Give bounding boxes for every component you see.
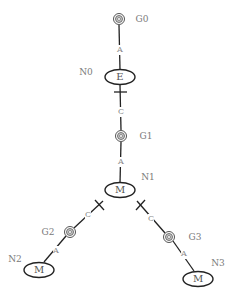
edge-label: A (118, 157, 124, 167)
node-text-n1: M (115, 185, 125, 195)
node-label-n3: N3 (211, 259, 225, 268)
target-icon (65, 227, 76, 238)
target-icon (164, 232, 175, 243)
edge-label: C (118, 107, 124, 117)
node-label-n1: N1 (141, 173, 155, 182)
node-label-n0: N0 (79, 68, 93, 77)
target-icon (116, 131, 127, 142)
edge-label: A (53, 246, 59, 256)
edge-label: A (181, 249, 187, 259)
goal-label-g1: G1 (140, 132, 153, 141)
goal-label-g0: G0 (136, 15, 149, 24)
target-icon (114, 14, 125, 25)
node-text-n0: E (116, 72, 123, 82)
process-diagram: A C A C A C A G0 G1 G2 G3 N0 N1 N2 N3 E … (0, 0, 242, 302)
node-text-n3: M (193, 274, 203, 284)
edge-label: C (85, 210, 91, 220)
edge-label: A (117, 45, 123, 55)
node-text-n2: M (34, 265, 44, 275)
node-label-n2: N2 (8, 255, 22, 264)
goal-label-g2: G2 (42, 228, 55, 237)
goal-label-g3: G3 (189, 233, 202, 242)
edge-label: C (148, 214, 154, 224)
